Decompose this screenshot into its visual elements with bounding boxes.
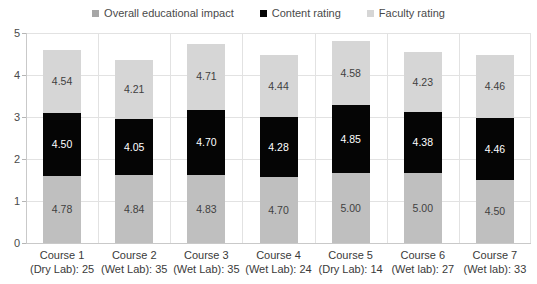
bar-segment-overall-educational-impact[interactable]: 4.21 [115,60,153,119]
category-name: Course 3 [184,249,229,261]
bar-stack[interactable]: 4.234.385.00 [404,33,442,243]
category-subtext: (Dry Lab): 14 [315,262,387,276]
bar-stack[interactable]: 4.544.504.78 [43,33,81,243]
plot-area: 012345 4.544.504.784.214.054.844.714.704… [26,33,531,243]
category-name: Course 7 [473,249,518,261]
bar-value-label: 4.46 [485,144,505,155]
chart-legend: Overall educational impactContent rating… [0,8,537,19]
category-subtext: (Wet lab): 27 [387,262,459,276]
square-marker-icon [92,10,99,17]
bar-segment-content-rating[interactable]: 4.05 [115,119,153,176]
x-axis-category-label: Course 5(Dry Lab): 14 [315,248,387,276]
x-axis-category-label: Course 1(Dry Lab): 25 [26,248,98,276]
bar-value-label: 4.21 [124,84,144,95]
bar-segment-content-rating[interactable]: 4.28 [260,117,298,177]
x-axis-category-label: Course 7(Wet lab): 33 [459,248,531,276]
bar-value-label: 4.23 [413,77,433,88]
bar-value-label: 4.50 [52,139,72,150]
bar-value-label: 4.71 [196,71,216,82]
y-axis-tick-label: 2 [14,154,26,165]
bar-value-label: 4.85 [340,134,360,145]
legend-label: Overall educational impact [104,8,234,19]
bar-value-label: 5.00 [413,203,433,214]
bar-stack[interactable]: 4.464.464.50 [476,33,514,243]
category-subtext: (Wet Lab): 35 [170,262,242,276]
bar-segment-faculty-rating[interactable]: 4.70 [260,177,298,243]
bar-segment-content-rating[interactable]: 4.50 [43,113,81,176]
y-axis-tick-label: 0 [14,238,26,249]
legend-label: Content rating [272,8,341,19]
x-axis-category-label: Course 4(Wet Lab): 24 [242,248,314,276]
bar-segment-overall-educational-impact[interactable]: 4.71 [187,44,225,110]
bar-segment-faculty-rating[interactable]: 5.00 [404,173,442,243]
bar-value-label: 4.05 [124,142,144,153]
category-subtext: (Wet Lab): 24 [242,262,314,276]
bar-value-label: 5.00 [340,203,360,214]
bar-value-label: 4.58 [340,68,360,79]
bar-value-label: 4.28 [268,142,288,153]
square-marker-icon [260,10,267,17]
bar-segment-overall-educational-impact[interactable]: 4.44 [260,55,298,117]
bar-value-label: 4.70 [268,205,288,216]
bar-value-label: 4.70 [196,137,216,148]
bar-segment-faculty-rating[interactable]: 4.78 [43,176,81,243]
legend-item[interactable]: Content rating [260,8,341,19]
bar-segment-content-rating[interactable]: 4.85 [332,105,370,173]
legend-label: Faculty rating [379,8,445,19]
bar-value-label: 4.84 [124,204,144,215]
bar-segment-content-rating[interactable]: 4.38 [404,112,442,173]
bar-segment-faculty-rating[interactable]: 4.83 [187,175,225,243]
x-axis-category-label: Course 6(Wet lab): 27 [387,248,459,276]
bar-stack[interactable]: 4.714.704.83 [187,33,225,243]
bar-value-label: 4.78 [52,204,72,215]
bar-stack[interactable]: 4.214.054.84 [115,33,153,243]
stacked-bar-chart: Overall educational impactContent rating… [0,0,537,284]
bar-segment-content-rating[interactable]: 4.70 [187,110,225,176]
bar-value-label: 4.46 [485,81,505,92]
bar-value-label: 4.50 [485,206,505,217]
category-name: Course 1 [40,249,85,261]
category-name: Course 4 [256,249,301,261]
bar-segment-overall-educational-impact[interactable]: 4.58 [332,41,370,105]
y-axis-tick-label: 3 [14,112,26,123]
bar-segment-overall-educational-impact[interactable]: 4.54 [43,50,81,114]
category-name: Course 6 [400,249,445,261]
category-subtext: (Dry Lab): 25 [26,262,98,276]
bar-segment-faculty-rating[interactable]: 5.00 [332,173,370,243]
bar-segment-content-rating[interactable]: 4.46 [476,118,514,180]
category-name: Course 5 [328,249,373,261]
bar-value-label: 4.38 [413,137,433,148]
bar-value-label: 4.83 [196,204,216,215]
legend-item[interactable]: Faculty rating [367,8,445,19]
bar-segment-faculty-rating[interactable]: 4.84 [115,175,153,243]
bar-value-label: 4.44 [268,81,288,92]
bar-segment-overall-educational-impact[interactable]: 4.23 [404,52,442,111]
y-axis-tick-label: 5 [14,28,26,39]
y-axis-tick-label: 4 [14,70,26,81]
bar-value-label: 4.54 [52,76,72,87]
bar-stack[interactable]: 4.584.855.00 [332,33,370,243]
square-marker-icon [367,10,374,17]
legend-item[interactable]: Overall educational impact [92,8,234,19]
category-subtext: (Wet Lab): 35 [98,262,170,276]
category-name: Course 2 [112,249,157,261]
bar-segment-overall-educational-impact[interactable]: 4.46 [476,55,514,117]
x-axis-category-labels: Course 1(Dry Lab): 25Course 2(Wet Lab): … [26,248,531,280]
x-axis-category-label: Course 2(Wet Lab): 35 [98,248,170,276]
x-axis-category-label: Course 3(Wet Lab): 35 [170,248,242,276]
y-axis-tick-label: 1 [14,196,26,207]
bar-series-container: 4.544.504.784.214.054.844.714.704.834.44… [26,33,531,243]
category-subtext: (Wet lab): 33 [459,262,531,276]
bar-segment-faculty-rating[interactable]: 4.50 [476,180,514,243]
gridline [26,243,531,244]
bar-stack[interactable]: 4.444.284.70 [260,33,298,243]
